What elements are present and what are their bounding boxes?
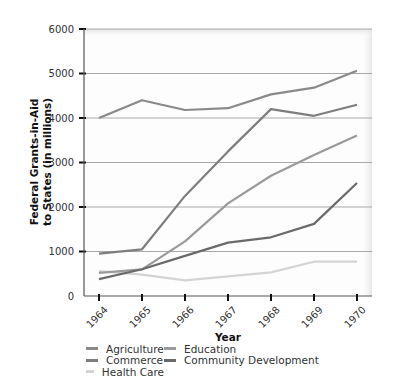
- y-axis-title: Federal Grants-in-Aidto States (in milli…: [28, 98, 53, 226]
- y-axis-title-line: to States (in millions): [41, 98, 53, 226]
- y-tick-label: 6000: [49, 24, 74, 35]
- legend-swatch-icon: [86, 347, 98, 350]
- legend-item-health-care: Health Care: [86, 366, 164, 378]
- legend: AgricultureEducationCommerceCommunity De…: [86, 343, 319, 378]
- legend-swatch-icon: [86, 359, 98, 362]
- legend-item-agriculture: Agriculture: [86, 343, 164, 355]
- x-tick-label: 1966: [170, 304, 196, 330]
- legend-item-education: Education: [164, 343, 319, 355]
- y-tick-label: 1000: [49, 246, 74, 257]
- legend-label: Commerce: [106, 354, 163, 366]
- legend-item-commerce: Commerce: [86, 355, 164, 367]
- line-chart: 0100020003000400050006000 19641965196619…: [0, 0, 393, 391]
- legend-label: Education: [184, 343, 236, 355]
- legend-item-community-development: Community Development: [164, 355, 319, 367]
- legend-label: Health Care: [102, 366, 164, 378]
- legend-swatch-icon: [164, 359, 176, 362]
- legend-swatch-icon: [164, 347, 176, 350]
- legend-swatch-icon: [86, 370, 94, 373]
- x-tick-label: 1969: [299, 304, 325, 330]
- x-tick-label: 1965: [127, 304, 153, 330]
- x-axis-title: Year: [214, 331, 242, 343]
- y-axis: 0100020003000400050006000: [49, 24, 86, 302]
- y-tick-label: 5000: [49, 68, 74, 79]
- y-axis-title-line: Federal Grants-in-Aid: [28, 99, 40, 226]
- legend-label: Community Development: [184, 354, 319, 366]
- legend-label: Agriculture: [106, 343, 164, 355]
- x-tick-label: 1967: [213, 304, 239, 330]
- x-tick-label: 1964: [84, 304, 110, 330]
- x-axis: 1964196519661967196819691970: [84, 294, 372, 330]
- x-tick-label: 1968: [256, 304, 282, 330]
- x-tick-label: 1970: [342, 304, 368, 330]
- y-tick-label: 0: [68, 291, 74, 302]
